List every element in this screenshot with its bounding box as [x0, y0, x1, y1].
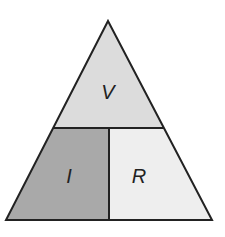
bottom-right-section-r: [109, 128, 212, 220]
label-i: I: [66, 165, 72, 187]
label-v: V: [101, 81, 116, 103]
ohms-law-triangle: V I R: [0, 0, 225, 237]
label-r: R: [132, 165, 146, 187]
bottom-left-section-i: [6, 128, 109, 220]
top-section-v: [53, 21, 164, 128]
